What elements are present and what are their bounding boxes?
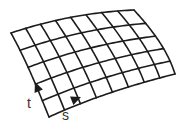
t-axis-label: t	[27, 96, 31, 110]
grid-lines	[11, 10, 175, 117]
surface-grid-diagram	[0, 0, 187, 138]
grid-line-t-direction	[40, 24, 80, 103]
s-axis-label: s	[62, 108, 69, 122]
grid-line-t-direction	[26, 28, 65, 110]
grid-line-t-direction	[55, 21, 96, 98]
